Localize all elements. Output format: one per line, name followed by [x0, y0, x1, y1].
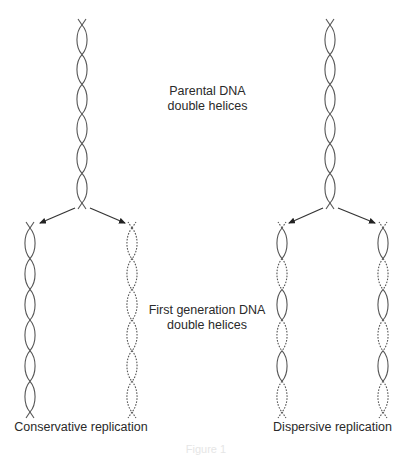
- first-gen-label-line1: First generation DNA: [142, 303, 272, 318]
- arrow-layer: [40, 208, 375, 223]
- arrow-icon: [40, 208, 75, 223]
- arrow-icon: [90, 208, 125, 223]
- dispersive-replication-label: Dispersive replication: [260, 420, 405, 435]
- parental-label-line2: double helices: [160, 99, 255, 114]
- helix-dispersive-1: [277, 222, 287, 418]
- helix-layer: [25, 19, 388, 418]
- helix-parental-left: [77, 19, 87, 209]
- conservative-replication-label: Conservative replication: [6, 420, 156, 435]
- helix-conservative-new: [127, 222, 137, 418]
- arrow-icon: [338, 208, 375, 223]
- parental-dna-label: Parental DNA double helices: [160, 84, 255, 114]
- helix-conservative-old: [25, 222, 35, 418]
- arrow-icon: [289, 208, 323, 223]
- first-generation-label: First generation DNA double helices: [142, 303, 272, 333]
- helix-dispersive-2: [378, 222, 388, 418]
- parental-label-line1: Parental DNA: [160, 84, 255, 99]
- figure-caption: Figure 1: [176, 443, 236, 455]
- first-gen-label-line2: double helices: [142, 318, 272, 333]
- helix-parental-right: [325, 19, 335, 209]
